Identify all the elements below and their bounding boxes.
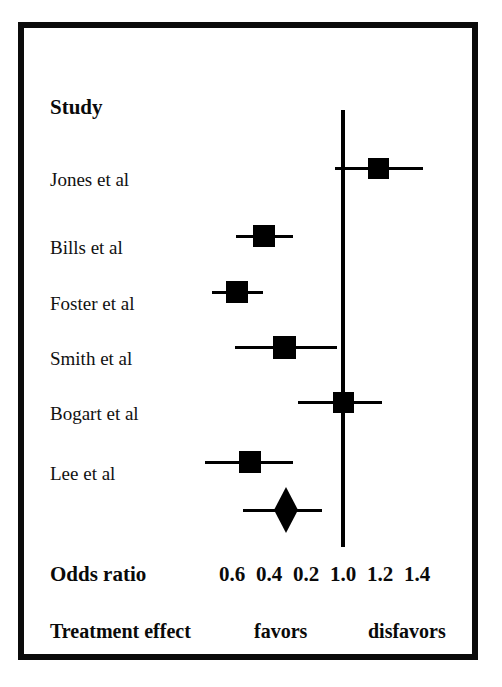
effect-estimate-marker-row-5 [239,451,261,473]
treatment-effect-row-label: Treatment effect [50,621,191,641]
study-label-row-2: Foster et al [50,294,134,313]
disfavors-annotation: disfavors [368,621,446,641]
null-reference-line [341,110,345,547]
favors-annotation: favors [254,621,307,641]
odds-ratio-axis-label: Odds ratio [50,564,146,585]
study-label-row-3: Smith et al [50,349,132,368]
tick-label-1-2: 1.2 [367,564,393,585]
effect-estimate-marker-row-4 [333,392,354,413]
plot-area: Study Jones et alBills et alFoster et al… [0,0,502,687]
tick-label-1-0: 1.0 [330,564,356,585]
tick-label-0-4: 0.4 [256,564,282,585]
study-label-row-4: Bogart et al [50,404,139,423]
effect-estimate-marker-row-0 [368,158,389,179]
study-column-header: Study [50,97,103,118]
tick-label-0-2: 0.2 [293,564,319,585]
tick-label-0-6: 0.6 [219,564,245,585]
effect-estimate-marker-row-1 [253,225,275,247]
effect-estimate-marker-row-2 [226,281,248,303]
summary-effect-diamond [274,487,298,533]
forest-plot-figure: Study Jones et alBills et alFoster et al… [0,0,502,687]
effect-estimate-marker-row-3 [273,336,296,359]
tick-label-1-4: 1.4 [404,564,430,585]
study-label-row-5: Lee et al [50,464,115,483]
study-label-row-1: Bills et al [50,238,123,257]
study-label-row-0: Jones et al [50,170,129,189]
